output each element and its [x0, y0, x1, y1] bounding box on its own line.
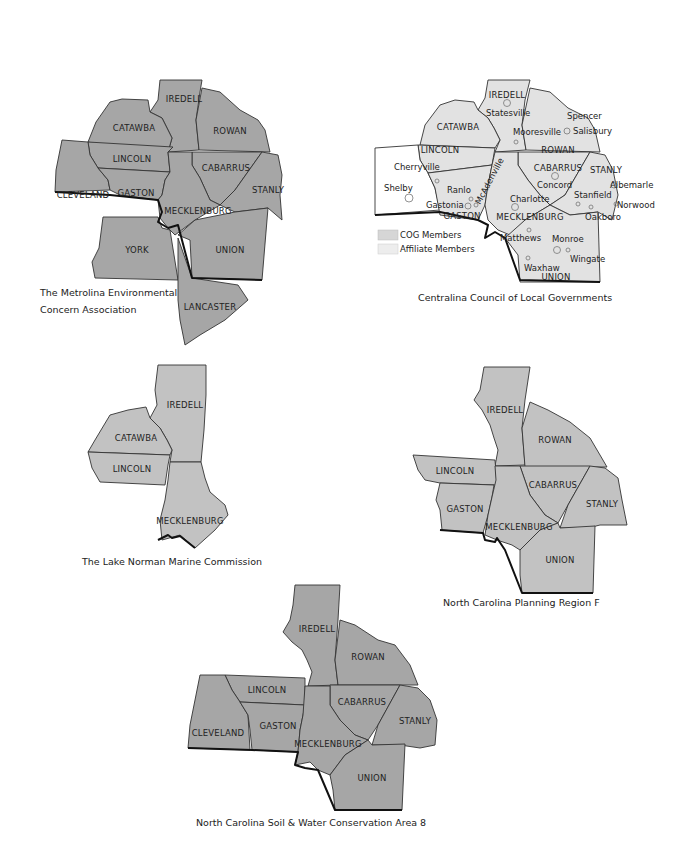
label-union: UNION — [215, 245, 244, 255]
city-norwood: Norwood — [617, 200, 655, 210]
label-lancaster: LANCASTER — [184, 302, 237, 312]
caption-soil-water: North Carolina Soil & Water Conservation… — [196, 814, 426, 831]
label-cleveland: CLEVELAND — [192, 728, 245, 738]
label-mecklenburg: MECKLENBURG — [164, 206, 231, 216]
city-salisbury: Salisbury — [573, 126, 612, 136]
label-iredell: IREDELL — [489, 90, 526, 100]
county-rowan — [196, 88, 270, 152]
city-shelby: Shelby — [384, 183, 413, 193]
label-lincoln: LINCOLN — [113, 154, 152, 164]
legend-swatch-cog — [378, 230, 398, 240]
legend-cog-label: COG Members — [400, 230, 462, 240]
label-lincoln: LINCOLN — [113, 464, 152, 474]
city-wingate: Wingate — [570, 254, 605, 264]
label-lincoln: LINCOLN — [436, 466, 475, 476]
legend-swatch-affiliate — [378, 244, 398, 254]
label-stanly: STANLY — [586, 499, 619, 509]
county-mecklenburg — [160, 462, 228, 548]
maps-canvas: IREDELL CATAWBA ROWAN LINCOLN CABARRUS C… — [0, 0, 683, 860]
label-iredell: IREDELL — [167, 400, 204, 410]
label-rowan: ROWAN — [541, 145, 575, 155]
label-cabarrus: CABARRUS — [534, 163, 582, 173]
city-mooresville: Mooresville — [513, 127, 561, 137]
city-stanfield: Stanfield — [574, 190, 612, 200]
county-iredell — [283, 585, 340, 686]
city-oakboro: Oakboro — [585, 212, 621, 222]
city-spencer: Spencer — [567, 111, 602, 121]
city-albemarle: Albemarle — [610, 180, 653, 190]
caption-centralina: Centralina Council of Local Governments — [418, 289, 612, 306]
city-cherryville: Cherryville — [394, 162, 440, 172]
label-rowan: ROWAN — [351, 652, 385, 662]
label-stanly: STANLY — [590, 165, 623, 175]
map-centralina: IREDELL CATAWBA ROWAN LINCOLN CABARRUS S… — [375, 80, 655, 282]
city-gastonia: Gastonia — [426, 200, 464, 210]
label-mecklenburg: MECKLENBURG — [496, 212, 563, 222]
city-monroe: Monroe — [552, 234, 584, 244]
county-iredell — [474, 367, 530, 466]
city-waxhaw: Waxhaw — [524, 263, 560, 273]
caption-lake-norman: The Lake Norman Marine Commission — [82, 553, 262, 570]
label-york: YORK — [124, 245, 149, 255]
label-mecklenburg: MECKLENBURG — [156, 516, 223, 526]
label-cabarrus: CABARRUS — [529, 480, 577, 490]
label-cleveland: CLEVELAND — [57, 190, 110, 200]
city-statesville: Statesville — [486, 108, 530, 118]
map-region-f: IREDELL ROWAN LINCOLN CABARRUS GASTON ST… — [413, 367, 627, 593]
label-gaston: GASTON — [259, 721, 296, 731]
label-catawba: CATAWBA — [437, 122, 479, 132]
map-lake-norman: IREDELL CATAWBA LINCOLN MECKLENBURG — [88, 365, 228, 548]
label-gaston: GASTON — [443, 211, 480, 221]
city-concord: Concord — [537, 180, 572, 190]
label-stanly: STANLY — [252, 185, 285, 195]
label-cabarrus: CABARRUS — [202, 163, 250, 173]
label-iredell: IREDELL — [166, 94, 203, 104]
label-union: UNION — [545, 555, 574, 565]
label-catawba: CATAWBA — [115, 433, 157, 443]
label-catawba: CATAWBA — [113, 123, 155, 133]
map-soil-water: IREDELL ROWAN LINCOLN CABARRUS CLEVELAND… — [188, 585, 437, 810]
city-matthews: Matthews — [500, 233, 542, 243]
label-rowan: ROWAN — [538, 435, 572, 445]
label-cabarrus: CABARRUS — [338, 697, 386, 707]
caption-metrolina: The Metrolina Environmental Concern Asso… — [40, 284, 177, 318]
legend-affiliate-label: Affiliate Members — [400, 244, 475, 254]
label-mecklenburg: MECKLENBURG — [294, 739, 361, 749]
label-rowan: ROWAN — [213, 126, 247, 136]
label-lincoln: LINCOLN — [421, 145, 460, 155]
city-charlotte: Charlotte — [510, 194, 549, 204]
label-iredell: IREDELL — [487, 405, 524, 415]
label-iredell: IREDELL — [299, 624, 336, 634]
label-gaston: GASTON — [446, 504, 483, 514]
label-gaston: GASTON — [117, 188, 154, 198]
label-stanly: STANLY — [399, 716, 432, 726]
label-lincoln: LINCOLN — [248, 685, 287, 695]
label-mecklenburg: MECKLENBURG — [485, 522, 552, 532]
label-union: UNION — [541, 272, 570, 282]
city-ranlo: Ranlo — [447, 185, 471, 195]
caption-metrolina-line2: Concern Association — [40, 301, 177, 318]
label-union: UNION — [357, 773, 386, 783]
caption-metrolina-line1: The Metrolina Environmental — [40, 284, 177, 301]
caption-region-f: North Carolina Planning Region F — [443, 594, 600, 611]
